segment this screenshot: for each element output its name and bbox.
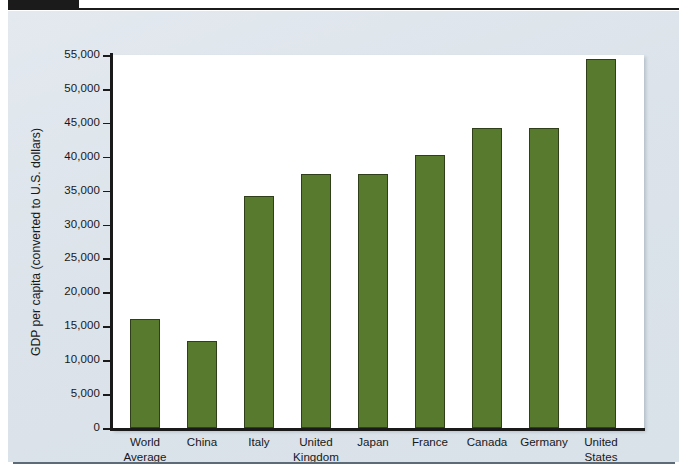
y-axis-tick: [103, 157, 111, 159]
y-axis-tick: [103, 428, 111, 430]
bar: [586, 59, 616, 428]
bar: [472, 128, 502, 428]
x-axis-line: [110, 428, 645, 431]
y-axis-tick-label-wrap: 25,000: [34, 251, 100, 265]
y-axis-tick: [103, 326, 111, 328]
y-axis-tick-label: 25,000: [42, 251, 100, 263]
y-axis-title: GDP per capita (converted to U.S. dollar…: [29, 62, 43, 422]
y-axis-tick: [103, 258, 111, 260]
bar: [187, 341, 217, 428]
y-axis-tick: [103, 292, 111, 294]
y-axis-tick-label: 5,000: [42, 387, 100, 399]
y-axis-line: [110, 53, 113, 431]
bar: [358, 174, 388, 428]
y-axis-tick-label: 35,000: [42, 184, 100, 196]
y-axis-tick-label-wrap: 55,000: [34, 48, 100, 62]
y-axis-tick-label-wrap: 35,000: [34, 184, 100, 198]
y-axis-tick-label: 15,000: [42, 319, 100, 331]
y-axis-tick: [103, 89, 111, 91]
x-axis-tick-label: United States: [565, 435, 637, 464]
y-axis-tick-label-wrap: 30,000: [34, 218, 100, 232]
y-axis-tick-label: 10,000: [42, 353, 100, 365]
y-axis-tick-label-wrap: 5,000: [34, 387, 100, 401]
y-axis-tick-label-wrap: 45,000: [34, 116, 100, 130]
y-axis-tick: [103, 225, 111, 227]
y-axis-tick-label: 40,000: [42, 150, 100, 162]
y-axis-tick: [103, 360, 111, 362]
bar: [244, 196, 274, 428]
y-axis-tick-label-wrap: 10,000: [34, 353, 100, 367]
y-axis-tick-label: 20,000: [42, 285, 100, 297]
y-axis-tick-label: 45,000: [42, 116, 100, 128]
top-divider-rule: [8, 8, 679, 10]
figure-panel: 05,00010,00015,00020,00025,00030,00035,0…: [8, 11, 679, 462]
y-axis-tick-label-wrap: 15,000: [34, 319, 100, 333]
y-axis-tick-label-wrap: 40,000: [34, 150, 100, 164]
bar: [301, 174, 331, 428]
y-axis-tick-label: 55,000: [42, 48, 100, 60]
y-axis-tick: [103, 191, 111, 193]
y-axis-tick-label-wrap: 0: [34, 421, 100, 435]
bar: [529, 128, 559, 428]
y-axis-tick-label: 30,000: [42, 218, 100, 230]
bottom-divider-rule: [13, 462, 675, 464]
y-axis-tick: [103, 55, 111, 57]
y-axis-tick-label-wrap: 50,000: [34, 82, 100, 96]
y-axis-tick: [103, 394, 111, 396]
y-axis-tick-label-wrap: 20,000: [34, 285, 100, 299]
y-axis-tick-label: 50,000: [42, 82, 100, 94]
y-axis-tick: [103, 123, 111, 125]
chart-figure: 05,00010,00015,00020,00025,00030,00035,0…: [0, 0, 687, 473]
bar: [415, 155, 445, 428]
bar: [130, 319, 160, 428]
y-axis-tick-label: 0: [42, 421, 100, 433]
